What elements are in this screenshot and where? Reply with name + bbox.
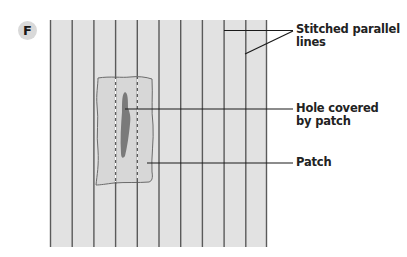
- label-patch: Patch: [296, 156, 331, 169]
- label-line: lines: [296, 36, 400, 49]
- label-stitched-parallel-lines: Stitched parallel lines: [296, 23, 400, 49]
- label-line: by patch: [296, 115, 379, 128]
- label-hole-covered-by-patch: Hole covered by patch: [296, 102, 379, 128]
- label-line: Patch: [296, 156, 331, 169]
